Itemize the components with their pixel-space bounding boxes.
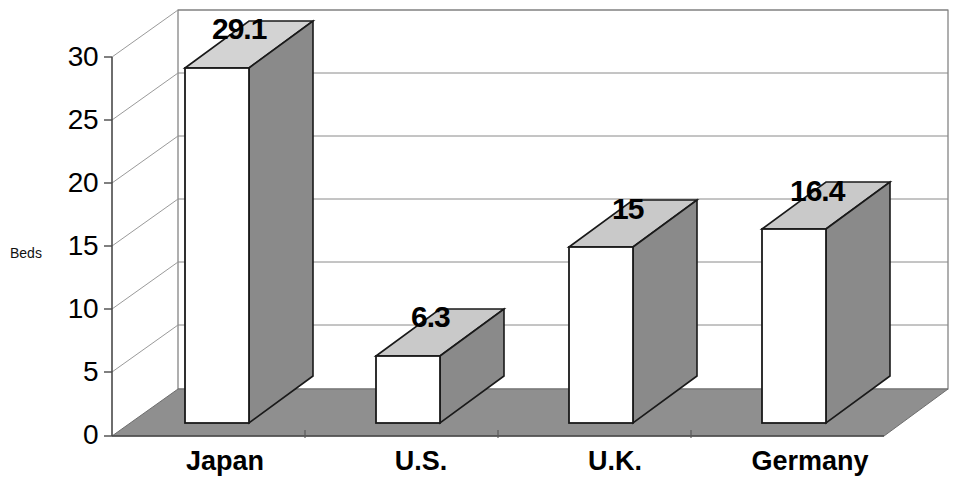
y-tick-label-5: 5 [40,358,98,386]
y-axis-title: Beds [10,246,42,260]
bar-uk-front [569,247,633,423]
bar-uk[interactable] [569,200,697,423]
bar-value-label-us: 6.3 [411,302,450,332]
y-tick-label-15: 15 [40,232,98,260]
bar-value-label-japan: 29.1 [212,14,266,44]
y-tick-label-0: 0 [40,421,98,449]
y-tick-label-25: 25 [40,106,98,134]
bar-value-label-germany: 16.4 [790,176,844,206]
chart-canvas [0,0,960,488]
y-tick-label-30: 30 [40,43,98,71]
y-tick-label-20: 20 [40,169,98,197]
category-label-germany: Germany [710,448,910,475]
category-label-uk: U.K. [530,448,700,475]
category-label-japan: Japan [140,448,310,475]
bar-value-label-uk: 15 [612,194,643,224]
category-label-us: U.S. [336,448,506,475]
bar-us-front [376,356,440,423]
bar-germany-front [762,229,826,423]
y-axis-ticks [104,57,112,436]
bar-japan-front [185,68,249,423]
bar-japan-side [249,21,313,423]
bar-japan[interactable] [185,21,313,423]
bar-chart: 30 25 20 15 10 5 0 Beds 29.1 6.3 15 16.4… [0,0,960,488]
bar-germany[interactable] [762,182,890,423]
depth-connectors [112,10,178,372]
y-tick-label-10: 10 [40,295,98,323]
